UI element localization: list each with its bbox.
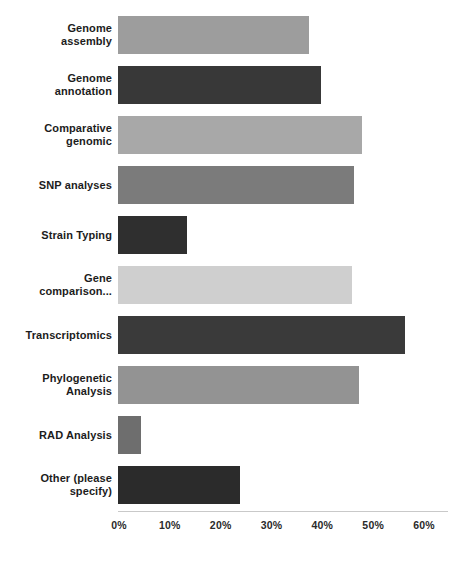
bar-track (118, 310, 474, 360)
bar (118, 316, 405, 354)
bar (118, 216, 187, 254)
bar-row: Genecomparison... (0, 260, 474, 310)
category-label: Comparativegenomic (0, 110, 112, 160)
bar-track (118, 360, 474, 410)
bar (118, 266, 352, 304)
bar (118, 466, 240, 504)
bar-track (118, 410, 474, 460)
bar-track (118, 60, 474, 110)
category-label: Other (pleasespecify) (0, 460, 112, 510)
category-label-line: Gene (84, 272, 112, 285)
category-label-line: Analysis (66, 385, 112, 398)
category-label: PhylogeneticAnalysis (0, 360, 112, 410)
bar-row: PhylogeneticAnalysis (0, 360, 474, 410)
bar (118, 116, 362, 154)
bar (118, 366, 359, 404)
bar-row: Transcriptomics (0, 310, 474, 360)
bar-row: Other (pleasespecify) (0, 460, 474, 510)
category-label: RAD Analysis (0, 410, 112, 460)
category-label-line: RAD Analysis (39, 429, 112, 442)
x-tick-label: 50% (350, 519, 396, 531)
category-label: Genomeannotation (0, 60, 112, 110)
x-tick-label: 10% (147, 519, 193, 531)
x-tick-label: 0% (96, 519, 142, 531)
bar-row: Genomeassembly (0, 10, 474, 60)
bar-row: SNP analyses (0, 160, 474, 210)
category-label-line: Genome (67, 22, 112, 35)
x-tick-label: 30% (249, 519, 295, 531)
bar-track (118, 10, 474, 60)
category-label-line: assembly (61, 35, 112, 48)
bar-track (118, 210, 474, 260)
bar-track (118, 110, 474, 160)
x-axis-baseline (118, 511, 448, 512)
x-tick-label: 20% (198, 519, 244, 531)
bar-track (118, 160, 474, 210)
bar-track (118, 460, 474, 510)
category-label: Transcriptomics (0, 310, 112, 360)
category-label-line: genomic (66, 135, 112, 148)
category-label: Genomeassembly (0, 10, 112, 60)
bar (118, 66, 321, 104)
category-label-line: annotation (55, 85, 112, 98)
category-label-line: Other (please (40, 472, 112, 485)
bar-row: RAD Analysis (0, 410, 474, 460)
category-label-line: Phylogenetic (42, 372, 112, 385)
horizontal-bar-chart: GenomeassemblyGenomeannotationComparativ… (0, 0, 474, 564)
x-axis-tick-labels: 0%10%20%30%40%50%60% (0, 519, 474, 539)
bar (118, 166, 354, 204)
bar-row: Genomeannotation (0, 60, 474, 110)
x-tick-label: 40% (299, 519, 345, 531)
bar-row: Comparativegenomic (0, 110, 474, 160)
category-label: Genecomparison... (0, 260, 112, 310)
bar-row: Strain Typing (0, 210, 474, 260)
bar (118, 16, 309, 54)
category-label-line: comparison... (39, 285, 112, 298)
category-label-line: specify) (70, 485, 112, 498)
category-label-line: Comparative (44, 122, 112, 135)
bar (118, 416, 141, 454)
category-label-line: Strain Typing (41, 229, 112, 242)
bar-track (118, 260, 474, 310)
category-label: Strain Typing (0, 210, 112, 260)
x-tick-label: 60% (401, 519, 447, 531)
category-label-line: Transcriptomics (26, 329, 112, 342)
category-label-line: SNP analyses (39, 179, 112, 192)
category-label-line: Genome (67, 72, 112, 85)
category-label: SNP analyses (0, 160, 112, 210)
bar-rows: GenomeassemblyGenomeannotationComparativ… (0, 10, 474, 510)
